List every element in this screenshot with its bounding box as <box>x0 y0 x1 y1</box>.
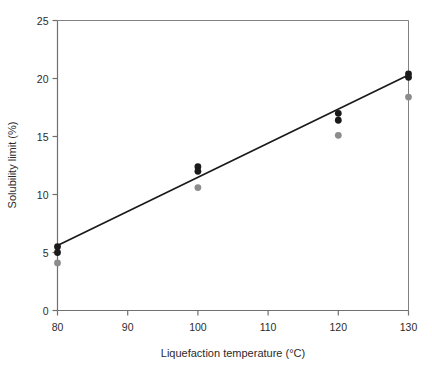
chart-figure: 8090100110120130 0510152025 Liquefaction… <box>0 0 432 368</box>
scatter-plot: 8090100110120130 0510152025 Liquefaction… <box>0 0 432 368</box>
data-point-black-markers <box>335 117 342 124</box>
data-point-grey-markers <box>54 260 61 267</box>
y-tick-label: 15 <box>37 131 49 143</box>
data-point-black-markers <box>335 110 342 117</box>
y-tick-label: 10 <box>37 189 49 201</box>
regression-line <box>58 75 409 246</box>
x-tick-label: 120 <box>330 321 348 333</box>
x-tick-label: 110 <box>260 321 277 333</box>
data-point-black-markers <box>195 168 202 175</box>
x-tick-label: 130 <box>400 321 418 333</box>
x-tick-label: 100 <box>189 321 207 333</box>
y-tick-label: 5 <box>43 247 49 259</box>
data-point-grey-markers <box>405 94 412 101</box>
data-point-black-markers <box>54 243 61 250</box>
x-tick-label: 80 <box>52 321 64 333</box>
data-point-black-markers <box>405 74 412 81</box>
y-axis-title: Solubility limit (%) <box>6 122 18 209</box>
y-tick-label: 0 <box>43 305 49 317</box>
data-point-grey-markers <box>335 132 342 139</box>
x-axis-ticks: 8090100110120130 <box>52 311 418 333</box>
y-tick-label: 25 <box>37 15 49 27</box>
y-axis-ticks: 0510152025 <box>37 15 58 317</box>
plot-frame <box>58 21 409 311</box>
data-point-grey-markers <box>195 184 202 191</box>
x-axis-title: Liquefaction temperature (°C) <box>161 347 305 359</box>
x-tick-label: 90 <box>122 321 134 333</box>
y-tick-label: 20 <box>37 73 49 85</box>
data-point-black-markers <box>54 249 61 256</box>
